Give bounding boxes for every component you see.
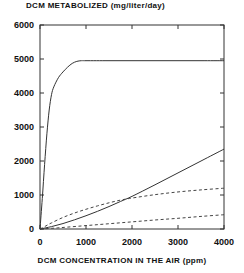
xtick-3000: 3000 <box>158 237 198 247</box>
chart-title: DCM METABOLIZED (mg/liter/day) <box>26 1 165 10</box>
plot-area <box>0 0 244 273</box>
xtick-0: 0 <box>20 237 60 247</box>
ytick-label-5000: 5000 <box>14 55 34 64</box>
data-series-layer <box>40 61 224 229</box>
xtick-label-3000: 3000 <box>158 237 198 247</box>
ytick-2000: 2000 <box>0 157 34 166</box>
ytick-label-6000: 6000 <box>14 21 34 30</box>
series-upper-dashed-curve <box>40 188 224 229</box>
axes-frame <box>40 25 224 229</box>
x-axis-title: DCM CONCENTRATION IN THE AIR (ppm) <box>0 256 244 265</box>
ytick-label-0: 0 <box>29 225 34 234</box>
xtick-label-4000: 4000 <box>204 237 244 247</box>
ytick-4000: 4000 <box>0 89 34 98</box>
ytick-label-1000: 1000 <box>14 191 34 200</box>
plot-frame <box>40 25 224 229</box>
ytick-5000: 5000 <box>0 55 34 64</box>
xtick-label-1000: 1000 <box>66 237 106 247</box>
xtick-2000: 2000 <box>112 237 152 247</box>
ytick-label-4000: 4000 <box>14 89 34 98</box>
xtick-label-2000: 2000 <box>112 237 152 247</box>
ytick-label-2000: 2000 <box>14 157 34 166</box>
ytick-label-3000: 3000 <box>14 123 34 132</box>
ytick-1000: 1000 <box>0 191 34 200</box>
ytick-3000: 3000 <box>0 123 34 132</box>
y-tick-marks <box>40 25 224 229</box>
xtick-label-0: 0 <box>20 237 60 247</box>
ytick-0: 0 <box>0 225 34 234</box>
xtick-1000: 1000 <box>66 237 106 247</box>
series-saturating-metabolism-curve <box>40 61 224 229</box>
chart-figure: DCM METABOLIZED (mg/liter/day) 6000 5000… <box>0 0 244 273</box>
ytick-6000: 6000 <box>0 21 34 30</box>
x-tick-marks <box>40 25 224 229</box>
xtick-4000: 4000 <box>204 237 244 247</box>
